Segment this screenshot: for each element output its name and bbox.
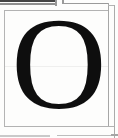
glyph-cell-border-left: [4, 10, 5, 127]
right-column-left-rule: [114, 5, 115, 138]
letter-o-glyph: O: [10, 0, 108, 130]
glyph-cell-border-right: [108, 3, 109, 128]
scanned-specimen-page: O: [0, 0, 118, 138]
below-right-cell-corner-rule: [111, 134, 118, 136]
